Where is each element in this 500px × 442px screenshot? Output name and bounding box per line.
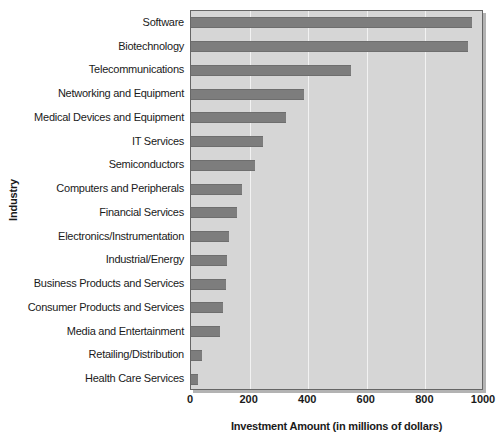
bar xyxy=(191,41,468,52)
bar xyxy=(191,374,198,385)
category-label: Networking and Equipment xyxy=(58,85,184,101)
category-label: Health Care Services xyxy=(85,370,184,386)
plot-area xyxy=(190,10,483,390)
bar xyxy=(191,89,304,100)
bar xyxy=(191,136,263,147)
category-label: Industrial/Energy xyxy=(106,251,184,267)
x-tick-label: 200 xyxy=(239,393,257,405)
y-axis-category-labels: SoftwareBiotechnologyTelecommunicationsN… xyxy=(18,10,188,390)
category-label: Electronics/Instrumentation xyxy=(58,228,184,244)
x-tick-label: 1000 xyxy=(471,393,495,405)
bar xyxy=(191,65,351,76)
bar xyxy=(191,302,223,313)
bar xyxy=(191,279,226,290)
category-label: Biotechnology xyxy=(118,38,184,54)
category-label: Computers and Peripherals xyxy=(56,180,184,196)
category-label: Medical Devices and Equipment xyxy=(34,109,184,125)
x-tick-label: 400 xyxy=(298,393,316,405)
bar xyxy=(191,160,255,171)
category-label: Financial Services xyxy=(99,204,184,220)
bar-chart: Industry SoftwareBiotechnologyTelecommun… xyxy=(0,0,500,442)
x-tick-label: 600 xyxy=(357,393,375,405)
category-label: IT Services xyxy=(132,133,184,149)
bar xyxy=(191,326,220,337)
x-tick-label: 800 xyxy=(415,393,433,405)
x-tick-label: 0 xyxy=(187,393,193,405)
bar xyxy=(191,255,227,266)
bar xyxy=(191,207,237,218)
x-axis-title: Investment Amount (in millions of dollar… xyxy=(190,420,483,432)
bar xyxy=(191,350,202,361)
category-label: Business Products and Services xyxy=(34,275,184,291)
category-label: Semiconductors xyxy=(109,156,184,172)
category-label: Software xyxy=(143,14,184,30)
bar xyxy=(191,17,472,28)
bar xyxy=(191,184,242,195)
bar xyxy=(191,112,286,123)
bar xyxy=(191,231,229,242)
x-axis-tick-labels: 02004006008001000 xyxy=(190,393,483,409)
gridline xyxy=(425,11,426,389)
gridline xyxy=(367,11,368,389)
category-label: Retailing/Distribution xyxy=(89,346,184,362)
category-label: Consumer Products and Services xyxy=(28,299,184,315)
category-label: Media and Entertainment xyxy=(67,323,184,339)
category-label: Telecommunications xyxy=(89,61,184,77)
